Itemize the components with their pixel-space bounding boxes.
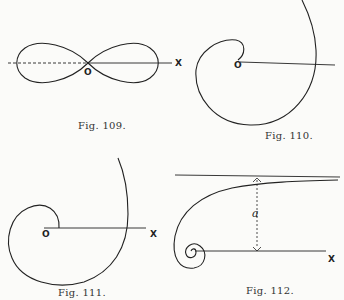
fig109-caption: Fig. 109. [78,120,126,131]
fig111-origin-label: O [42,229,50,239]
book-page: O X Fig. 109. O Fig. 110. O X Fig. 111. … [0,0,344,300]
fig109-axis-label: X [175,58,182,68]
fig110-caption: Fig. 110. [265,130,313,141]
fig112-distance-label: a [252,207,259,220]
fig109-origin-label: O [84,67,92,77]
figures-drawing [0,0,344,300]
fig110-spiral [196,0,335,125]
fig111-spiral [9,158,146,285]
fig112-lituus [174,175,340,268]
fig110-origin-label: O [234,60,242,70]
fig112-axis-label: X [328,254,335,264]
fig111-caption: Fig. 111. [58,287,106,298]
fig111-axis-label: X [150,229,157,239]
fig112-caption: Fig. 112. [246,285,294,296]
